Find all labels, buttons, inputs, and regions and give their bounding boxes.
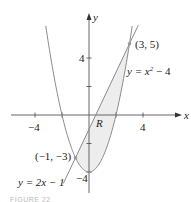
x-axis-label: x — [183, 109, 189, 121]
y-tick-label-4: 4 — [79, 52, 85, 64]
point-neg1-neg3 — [74, 156, 78, 160]
y-tick-label-neg4: −4 — [76, 172, 88, 184]
figure-caption: FIGURE 22 — [10, 196, 51, 202]
point-3-5 — [128, 42, 132, 46]
y-axis-label: y — [92, 11, 98, 23]
graph-canvas: x y −4 4 4 −4 (3, 5) (−1, −3) y = x2 − 4… — [0, 0, 191, 202]
parabola-equation-label: y = x2 − 4 — [126, 65, 171, 77]
x-tick-label-4: 4 — [140, 121, 146, 133]
x-tick-label-neg4: −4 — [28, 121, 40, 133]
y-axis-arrow-icon — [87, 13, 92, 20]
line-equation-label: y = 2x − 1 — [17, 176, 65, 188]
point-label-neg1-neg3: (−1, −3) — [35, 150, 72, 163]
region-label: R — [95, 117, 103, 129]
x-axis-arrow-icon — [175, 113, 182, 118]
point-label-3-5: (3, 5) — [135, 38, 159, 51]
